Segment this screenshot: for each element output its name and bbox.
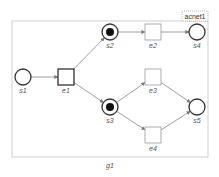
petri-net-diagram: acnet1 g1 s1s2s3s4s5e1e2e3e4	[0, 0, 219, 177]
transition-box-icon	[145, 69, 161, 85]
arc-e1-s3	[74, 82, 103, 102]
node-label: s5	[193, 117, 201, 124]
transition-e3[interactable]: e3	[145, 69, 161, 94]
node-label: e1	[62, 87, 70, 94]
transition-e4[interactable]: e4	[145, 127, 161, 152]
nodes-layer: s1s2s3s4s5e1e2e3e4	[15, 24, 205, 152]
node-label: e3	[149, 87, 157, 94]
transition-box-icon	[145, 127, 161, 143]
place-s5[interactable]: s5	[189, 99, 205, 124]
arc-e1-s2	[74, 38, 105, 69]
node-label: s1	[19, 87, 27, 94]
arc-e4-s5	[161, 111, 190, 130]
place-s1[interactable]: s1	[15, 69, 31, 94]
place-circle-icon	[189, 24, 205, 40]
place-circle-icon	[189, 99, 205, 115]
place-s3[interactable]: s3	[102, 99, 118, 124]
arc-s3-e4	[117, 111, 145, 129]
arc-e3-s5	[161, 82, 190, 102]
node-label: s4	[193, 42, 201, 49]
transition-box-icon	[145, 24, 161, 40]
net-label: acnet1	[184, 13, 205, 20]
place-s2[interactable]: s2	[102, 24, 118, 49]
place-s4[interactable]: s4	[189, 24, 205, 49]
transition-e1[interactable]: e1	[58, 69, 74, 94]
node-label: e4	[149, 145, 157, 152]
group-label: g1	[106, 162, 114, 170]
token-icon	[106, 28, 114, 36]
node-label: e2	[149, 42, 157, 49]
token-icon	[106, 103, 114, 111]
node-label: s3	[106, 117, 114, 124]
arc-s3-e3	[117, 83, 145, 103]
node-label: s2	[106, 42, 114, 49]
transition-e2[interactable]: e2	[145, 24, 161, 49]
place-circle-icon	[15, 69, 31, 85]
transition-box-icon	[58, 69, 74, 85]
